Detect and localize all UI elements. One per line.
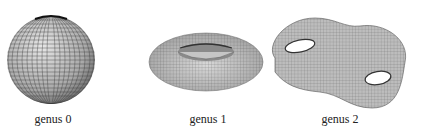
- label-genus-0: genus 0: [3, 112, 103, 127]
- torus-mesh: [140, 30, 270, 100]
- label-genus-2: genus 2: [290, 112, 390, 127]
- label-genus-1: genus 1: [158, 112, 258, 127]
- sphere-mesh: [0, 16, 110, 104]
- double-torus-mesh: [260, 10, 420, 120]
